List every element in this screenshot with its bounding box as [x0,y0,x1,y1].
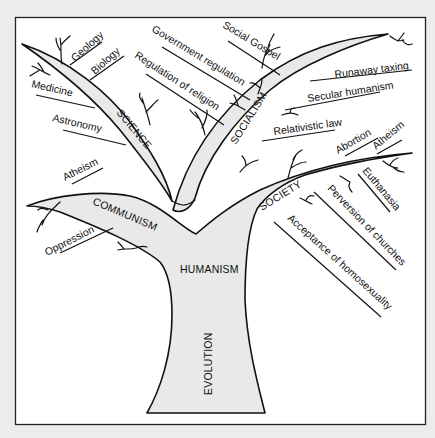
trunk-label-humanism: HUMANISM [180,263,239,275]
trunk-label-evolution: EVOLUTION [202,333,214,395]
humanism-tree-diagram: SCIENCE COMMUNISM SOCIALISM SOCIETY HUMA… [0,0,435,438]
